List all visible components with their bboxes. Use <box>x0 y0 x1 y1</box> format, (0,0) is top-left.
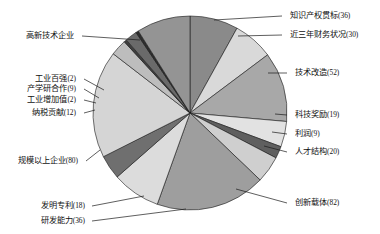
slice-label: 发明专利(18) <box>41 200 86 210</box>
leader-line <box>214 16 282 20</box>
slice-label: 利润(9) <box>295 128 320 138</box>
leader-line <box>236 189 287 203</box>
leader-line <box>86 150 100 161</box>
slice-label: 工业增加值(2) <box>27 94 76 104</box>
slice-label: 人才结构(20) <box>295 146 340 156</box>
slice-label: 科技奖励(19) <box>295 109 340 119</box>
pie-chart-figure: 知识产权贯标(36)近三年财务状况(30)技术改造(52)科技奖励(19)利润(… <box>0 0 380 234</box>
slice-label: 产学研合作(9) <box>27 83 76 93</box>
leader-line <box>92 196 144 206</box>
slice-label: 知识产权贯标(36) <box>290 10 351 20</box>
leader-line <box>92 209 186 221</box>
slice-label: 高新技术企业 <box>26 30 74 40</box>
slice-label: 规模以上企业(80) <box>18 155 79 165</box>
slice-label: 近三年财务状况(30) <box>290 29 359 39</box>
pie-chart-canvas: 知识产权贯标(36)近三年财务状况(30)技术改造(52)科技奖励(19)利润(… <box>0 0 380 234</box>
slice-label: 纳税贡献(12) <box>32 107 77 117</box>
slice-label: 技术改造(52) <box>295 67 340 77</box>
slice-label: 创新载体(82) <box>295 197 340 207</box>
slice-label: 工业百强(2) <box>35 73 76 83</box>
slice-label: 研发能力(36) <box>41 215 86 225</box>
pie-slices-group <box>93 16 287 210</box>
